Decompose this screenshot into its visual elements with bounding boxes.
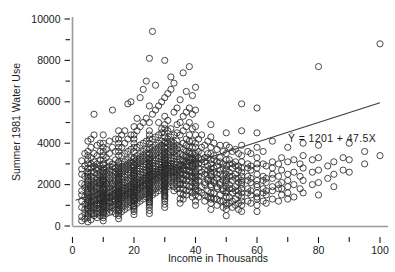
y-axis-title: Summer 1981 Water Use bbox=[10, 63, 22, 181]
x-tick-label: 100 bbox=[371, 244, 389, 256]
regression-equation-label: Ŷ = 1201 + 47.5X bbox=[288, 132, 376, 144]
y-tick-label: 0 bbox=[55, 220, 61, 232]
x-tick-label: 0 bbox=[70, 244, 76, 256]
y-tick-label: 4000 bbox=[37, 137, 61, 149]
y-tick-label: 8000 bbox=[37, 54, 61, 66]
y-tick-label: 10000 bbox=[31, 13, 60, 25]
x-tick-label: 20 bbox=[128, 244, 140, 256]
x-tick-label: 80 bbox=[313, 244, 325, 256]
y-tick-label: 2000 bbox=[37, 178, 61, 190]
scatter-plot-figure: 0200040006000800010000 020406080100 Summ… bbox=[0, 0, 395, 272]
y-tick-label: 6000 bbox=[37, 95, 61, 107]
x-axis-title: Income in Thousands bbox=[168, 252, 268, 264]
plot-canvas: 0200040006000800010000 020406080100 Summ… bbox=[0, 0, 395, 272]
